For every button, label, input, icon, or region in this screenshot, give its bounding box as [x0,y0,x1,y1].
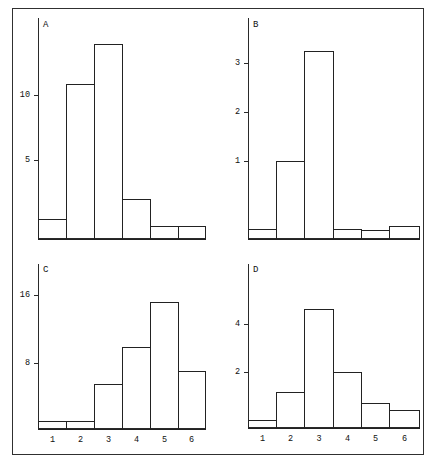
panel-b-bar-6 [389,226,420,240]
panel-b: B 3 2 1 [215,0,433,250]
panel-c-bar-3 [94,384,123,430]
panel-c-xtick-label-1: 1 [38,436,67,445]
panel-b-ytick-label-2: 2 [219,108,240,117]
panel-c-bar-1 [38,421,67,430]
panel-c-bar-5 [150,302,179,430]
panel-b-bar-4 [333,229,362,240]
panel-c-xtick-label-2: 2 [66,436,95,445]
panel-c-xtick-label-4: 4 [122,436,151,445]
panel-a-bar-2 [66,84,95,240]
panel-c-ytick-label-16: 16 [6,291,30,300]
panel-b-bar-2 [276,161,305,240]
panel-d-bar-6 [389,410,420,429]
figure-root: A 10 5 B 3 2 1 [0,0,433,471]
panel-a-ytick-label-10: 10 [8,91,30,100]
panel-a-bar-5 [150,226,179,240]
panel-d-ytick-label-4: 4 [219,320,240,329]
panel-b-bar-3 [304,51,334,240]
panel-d-xtick-label-4: 4 [333,435,362,444]
panel-d-bar-2 [276,392,305,429]
panel-c-bar-2 [66,421,95,430]
panel-d-xtick-label-2: 2 [276,435,305,444]
panel-c-ytick-label-8: 8 [6,359,30,368]
panel-d-xtick-label-3: 3 [304,435,334,444]
panel-b-plot-area [248,18,420,239]
panel-a-bar-3 [94,44,123,240]
panel-b-ytick-label-1: 1 [219,157,240,166]
panel-d-bar-3 [304,309,334,429]
panel-c-xtick-label-3: 3 [94,436,123,445]
panel-d-plot-area [248,264,420,428]
panel-c: C 16 8 1 2 3 4 5 6 [0,250,215,471]
panel-d-ytick-label-2: 2 [219,368,240,377]
panel-d: D 4 2 1 2 3 4 5 6 [215,250,433,471]
panel-a-bar-4 [122,199,151,240]
panel-a: A 10 5 [0,0,215,250]
panel-c-xtick-label-5: 5 [150,436,179,445]
panel-b-bar-1 [248,229,277,240]
panel-c-bar-6 [178,371,206,430]
panel-d-xtick-label-1: 1 [248,435,277,444]
panel-d-bar-5 [361,403,390,429]
panel-a-ytick-label-5: 5 [8,156,30,165]
panel-d-xtick-label-6: 6 [389,435,420,444]
panel-b-bar-5 [361,230,390,240]
panel-d-bar-4 [333,372,362,429]
panel-b-ytick-label-3: 3 [219,59,240,68]
panel-c-bar-4 [122,347,151,430]
panel-d-xtick-label-5: 5 [361,435,390,444]
panel-c-xtick-label-6: 6 [177,436,206,445]
panel-a-bar-6 [178,226,206,240]
panel-c-plot-area [38,264,205,429]
panel-a-bar-1 [38,219,67,240]
panel-d-bar-1 [248,420,277,429]
panel-a-plot-area [38,18,205,239]
